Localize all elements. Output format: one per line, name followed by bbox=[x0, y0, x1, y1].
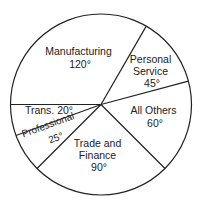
label-trans: Trans. 20° bbox=[25, 104, 73, 116]
pie-chart: Manufacturing 120° Personal Service 45° … bbox=[0, 0, 200, 206]
pie-chart-svg: Manufacturing 120° Personal Service 45° … bbox=[0, 0, 200, 206]
